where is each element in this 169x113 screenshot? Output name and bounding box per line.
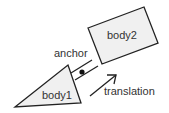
body2-label: body2 — [107, 30, 137, 41]
prismatic-joint-diagram: body2 anchor body1 translation — [0, 0, 169, 113]
anchor-dot — [79, 69, 84, 74]
anchor-label: anchor — [54, 48, 88, 59]
body1-label: body1 — [42, 90, 72, 101]
translation-label: translation — [104, 86, 155, 97]
